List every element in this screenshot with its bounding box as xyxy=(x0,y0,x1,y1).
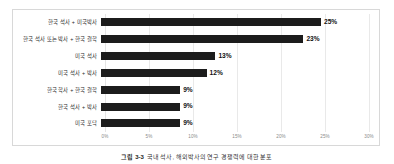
category-label: 미국 포닥 xyxy=(13,120,101,126)
bar xyxy=(101,18,321,26)
bar-container: 23% xyxy=(101,31,369,48)
bar-row: 한국 학사 + 한국 결학 9% xyxy=(13,81,369,98)
bar xyxy=(101,86,180,94)
bar xyxy=(101,119,180,127)
x-tick-label: 0% xyxy=(102,134,109,139)
bar-value-label: 9% xyxy=(183,103,193,110)
figure-caption: 그림 3-3국내 석사, 해외박사의 연구 경쟁력에 대한 분포 xyxy=(0,152,394,161)
bar-row: 한국 석사 + 미국박사 25% xyxy=(13,14,369,31)
bar-row: 미국 포닥 9% xyxy=(13,115,369,132)
bar-container: 9% xyxy=(101,81,369,98)
bar-container: 12% xyxy=(101,65,369,82)
x-axis: 0% 5% 10% 15% 20% 25% 30% xyxy=(105,134,369,144)
x-tick-label: 15% xyxy=(232,134,242,139)
category-label: 한국 석사 + 미국박사 xyxy=(13,19,101,25)
bar xyxy=(101,52,215,60)
bar-value-label: 9% xyxy=(183,87,193,94)
bar-value-label: 12% xyxy=(210,70,223,77)
bar xyxy=(101,103,180,111)
caption-text: 국내 석사, 해외박사의 연구 경쟁력에 대한 분포 xyxy=(147,154,273,160)
bar-container: 9% xyxy=(101,98,369,115)
bar-container: 13% xyxy=(101,48,369,65)
category-label: 한국 석사 + 박사 xyxy=(13,104,101,110)
bar-container: 25% xyxy=(101,14,369,31)
category-label: 미국 석사 xyxy=(13,53,101,59)
x-tick-label: 10% xyxy=(188,134,198,139)
bar-value-label: 9% xyxy=(183,120,193,127)
plot-area: 한국 석사 + 미국박사 25% 한국 석사 또는 박사 + 한국 결학 23%… xyxy=(105,14,369,132)
category-label: 한국 학사 + 한국 결학 xyxy=(13,87,101,93)
bar-value-label: 25% xyxy=(324,19,337,26)
bar-container: 9% xyxy=(101,115,369,132)
bar-rows: 한국 석사 + 미국박사 25% 한국 석사 또는 박사 + 한국 결학 23%… xyxy=(13,14,369,132)
gridline-30 xyxy=(369,14,370,132)
chart-frame: 한국 석사 + 미국박사 25% 한국 석사 또는 박사 + 한국 결학 23%… xyxy=(12,9,380,146)
bar-value-label: 13% xyxy=(218,53,231,60)
bar-row: 한국 석사 + 박사 9% xyxy=(13,98,369,115)
bar xyxy=(101,69,207,77)
caption-tag: 그림 3-3 xyxy=(121,154,143,160)
x-tick-label: 25% xyxy=(320,134,330,139)
bar xyxy=(101,35,303,43)
x-tick-label: 20% xyxy=(276,134,286,139)
category-label: 미국 석사 + 박사 xyxy=(13,70,101,76)
x-tick-label: 30% xyxy=(364,134,374,139)
x-tick-label: 5% xyxy=(146,134,153,139)
figure: 한국 석사 + 미국박사 25% 한국 석사 또는 박사 + 한국 결학 23%… xyxy=(0,0,394,164)
bar-row: 미국 석사 13% xyxy=(13,48,369,65)
bar-row: 미국 석사 + 박사 12% xyxy=(13,65,369,82)
bar-value-label: 23% xyxy=(306,36,319,43)
bar-row: 한국 석사 또는 박사 + 한국 결학 23% xyxy=(13,31,369,48)
category-label: 한국 석사 또는 박사 + 한국 결학 xyxy=(13,36,101,42)
